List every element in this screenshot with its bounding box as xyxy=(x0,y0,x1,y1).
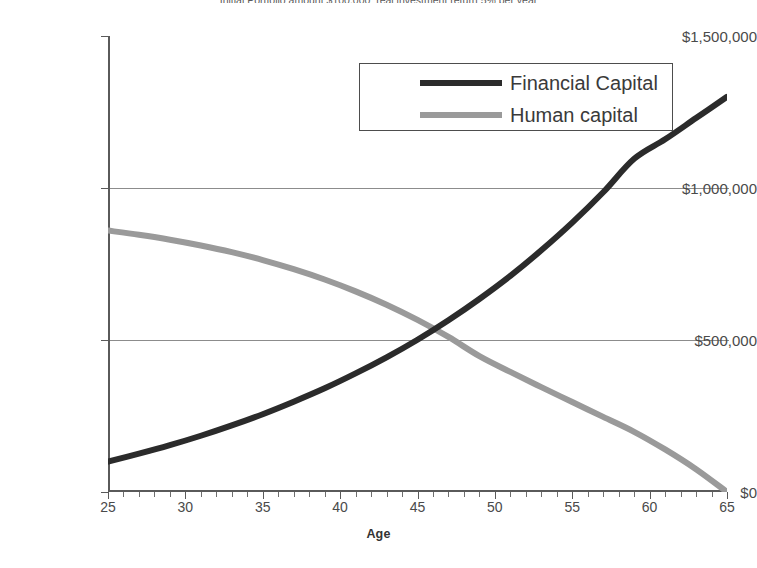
line-financial-capital xyxy=(108,97,727,462)
x-axis-minor-tick xyxy=(387,492,388,497)
x-axis-minor-tick xyxy=(201,492,202,497)
x-axis-minor-tick xyxy=(325,492,326,497)
line-human-capital xyxy=(108,231,727,492)
x-axis-tick-mark xyxy=(340,492,341,499)
y-axis-tick-mark xyxy=(101,36,108,37)
y-axis-tick-mark xyxy=(101,340,108,341)
x-axis-minor-tick xyxy=(247,492,248,497)
x-axis-minor-tick xyxy=(154,492,155,497)
x-axis-minor-tick xyxy=(696,492,697,497)
x-axis-minor-tick xyxy=(479,492,480,497)
x-axis-minor-tick xyxy=(356,492,357,497)
legend-item-human-capital: Human capital xyxy=(360,100,674,130)
x-axis-tick-label: 60 xyxy=(620,500,680,515)
x-axis-minor-tick xyxy=(526,492,527,497)
chart-container: Initial Portfolio amount $100,000; real … xyxy=(0,0,757,568)
x-axis-minor-tick xyxy=(634,492,635,497)
x-axis-tick-label: 35 xyxy=(233,500,293,515)
x-axis-tick-label: 25 xyxy=(78,500,138,515)
x-axis-tick-mark xyxy=(185,492,186,499)
x-axis-tick-label: 30 xyxy=(155,500,215,515)
y-axis-tick-label: $0 xyxy=(661,485,757,500)
legend-swatch-icon xyxy=(420,80,502,86)
chart-title: Initial Portfolio amount $100,000; real … xyxy=(0,0,757,3)
x-axis-minor-tick xyxy=(557,492,558,497)
x-axis-minor-tick xyxy=(371,492,372,497)
x-axis-minor-tick xyxy=(448,492,449,497)
x-axis-minor-tick xyxy=(541,492,542,497)
y-axis-tick-label: $500,000 xyxy=(661,333,757,348)
x-axis-tick-label: 50 xyxy=(465,500,525,515)
x-axis-minor-tick xyxy=(170,492,171,497)
x-axis-tick-label: 55 xyxy=(542,500,602,515)
x-axis-tick-mark xyxy=(495,492,496,499)
x-axis-minor-tick xyxy=(123,492,124,497)
x-axis-tick-mark xyxy=(418,492,419,499)
x-axis-tick-label: 65 xyxy=(697,500,757,515)
x-axis-minor-tick xyxy=(681,492,682,497)
x-axis-minor-tick xyxy=(510,492,511,497)
x-axis-title: Age xyxy=(0,527,757,541)
x-axis-minor-tick xyxy=(216,492,217,497)
y-axis-tick-label: $1,500,000 xyxy=(661,29,757,44)
x-axis-minor-tick xyxy=(619,492,620,497)
legend-label: Human capital xyxy=(510,104,638,126)
x-axis-minor-tick xyxy=(464,492,465,497)
x-axis-minor-tick xyxy=(402,492,403,497)
x-axis-tick-mark xyxy=(727,492,728,499)
legend-item-financial-capital: Financial Capital xyxy=(360,68,674,98)
chart-legend: Financial Capital Human capital xyxy=(359,63,673,131)
x-axis-minor-tick xyxy=(139,492,140,497)
x-axis-tick-label: 40 xyxy=(310,500,370,515)
x-axis-minor-tick xyxy=(665,492,666,497)
x-axis-tick-mark xyxy=(572,492,573,499)
x-axis-minor-tick xyxy=(588,492,589,497)
x-axis-minor-tick xyxy=(278,492,279,497)
y-axis-tick-mark xyxy=(101,188,108,189)
y-axis-tick-label: $1,000,000 xyxy=(661,181,757,196)
x-axis-minor-tick xyxy=(433,492,434,497)
legend-label: Financial Capital xyxy=(510,72,658,94)
x-axis-minor-tick xyxy=(603,492,604,497)
x-axis-minor-tick xyxy=(712,492,713,497)
x-axis-tick-mark xyxy=(263,492,264,499)
x-axis-tick-mark xyxy=(650,492,651,499)
x-axis-minor-tick xyxy=(232,492,233,497)
x-axis-tick-mark xyxy=(108,492,109,499)
x-axis-minor-tick xyxy=(309,492,310,497)
x-axis-tick-label: 45 xyxy=(388,500,448,515)
legend-swatch-icon xyxy=(420,112,502,118)
y-axis-tick-mark xyxy=(101,492,108,493)
x-axis-minor-tick xyxy=(294,492,295,497)
